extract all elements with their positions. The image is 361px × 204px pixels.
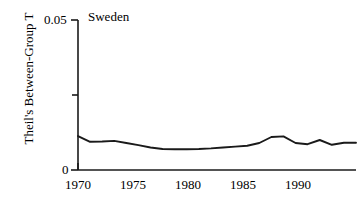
x-tick-label-1980: 1980	[175, 178, 201, 191]
x-tick-label-1975: 1975	[120, 178, 146, 191]
y-tick-label-min: 0	[62, 163, 69, 176]
y-axis-title: Theil's Between-Group T	[22, 0, 35, 159]
x-tick-label-1990: 1990	[285, 178, 311, 191]
x-tick-label-1970: 1970	[65, 178, 91, 191]
data-series-line	[78, 136, 356, 149]
chart-figure: Sweden Theil's Between-Group T 0.05 0 19…	[0, 0, 361, 204]
x-tick-label-1985: 1985	[230, 178, 256, 191]
chart-plot-area	[0, 0, 361, 204]
y-tick-label-max: 0.05	[44, 13, 67, 26]
chart-title: Sweden	[88, 10, 129, 23]
